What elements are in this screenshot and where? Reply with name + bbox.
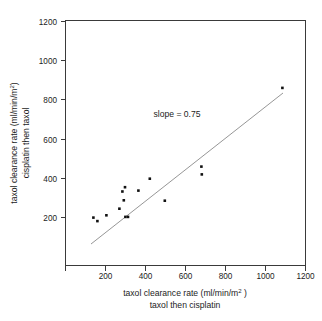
axes-frame-rect [66,21,306,266]
data-point [105,214,108,217]
data-point [124,186,127,189]
y-tick-label-1000: 1000 [39,57,58,66]
x-axis-title-line1: taxol clearance rate (ml/min/m2 ) [123,288,247,298]
y-axis-title-line1-main: taxol clearance rate (ml/min/m [9,89,19,204]
x-axis-title: taxol clearance rate (ml/min/m2 ) taxol … [123,288,247,310]
x-tick-label-400: 400 [139,272,153,281]
data-point-markers [92,87,284,223]
y-axis-title: taxol clearance rate (ml/min/m2) cisplat… [9,82,31,203]
y-axis-ticks [61,22,66,218]
y-tick-label-200: 200 [43,214,57,223]
y-tick-label-400: 400 [43,175,57,184]
data-point [123,199,126,202]
x-tick-label-1000: 1000 [256,272,275,281]
chart-figure: 1200 1000 800 600 400 200 200 400 600 80… [0,0,322,321]
y-axis-title-line1-tail: ) [9,82,19,85]
data-point [118,207,121,210]
data-point [137,189,140,192]
data-point [121,190,124,193]
data-point [201,173,204,176]
x-tick-label-600: 600 [179,272,193,281]
y-tick-label-800: 800 [43,96,57,105]
x-tick-label-200: 200 [99,272,113,281]
scatter-plot-svg: 1200 1000 800 600 400 200 200 400 600 80… [0,0,322,321]
y-tick-labels: 1200 1000 800 600 400 200 [39,18,58,223]
y-tick-label-1200: 1200 [39,18,58,27]
x-tick-label-1200: 1200 [296,272,315,281]
data-point [281,87,284,90]
y-axis-title-line2: cisplatin then taxol [21,108,31,179]
x-tick-labels: 200 400 600 800 1000 1200 [99,272,315,281]
data-point [149,177,152,180]
plot-frame [66,21,306,266]
data-point [124,216,127,219]
slope-annotation: slope = 0.75 [153,109,200,119]
data-point [127,216,130,219]
data-point [200,165,203,168]
data-point [92,216,95,219]
y-axis-title-line1: taxol clearance rate (ml/min/m2) [9,82,19,203]
x-axis-title-line1-main: taxol clearance rate (ml/min/m [123,288,238,298]
data-point [164,199,167,202]
y-tick-label-600: 600 [43,136,57,145]
x-axis-title-line1-tail: ) [242,288,247,298]
x-axis-ticks [66,266,306,271]
x-axis-title-line2: taxol then cisplatin [150,300,221,310]
data-point [96,220,99,223]
x-tick-label-800: 800 [219,272,233,281]
